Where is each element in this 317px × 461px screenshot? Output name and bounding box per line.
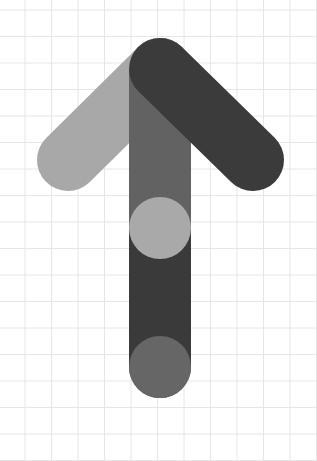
- canvas: [0, 0, 317, 461]
- upper-dot: [129, 197, 191, 259]
- up-arrow-logo: [0, 0, 317, 461]
- lower-dot: [129, 336, 191, 398]
